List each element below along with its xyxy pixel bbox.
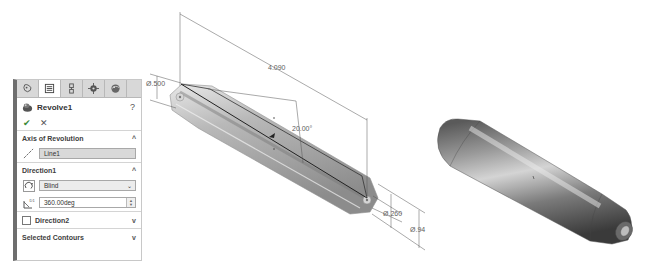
end-condition-value: Blind xyxy=(44,182,58,189)
reverse-direction-icon[interactable] xyxy=(22,179,35,192)
section-label: Axis of Revolution xyxy=(22,135,132,142)
configuration-manager-tab[interactable] xyxy=(61,80,83,97)
angle-value: 360.00deg xyxy=(44,199,75,206)
chevron-down-icon[interactable]: v xyxy=(132,217,136,224)
axis-of-revolution-section: Axis of Revolution ^ Line1 xyxy=(17,130,141,162)
feature-tree-icon xyxy=(22,83,33,94)
dimension-bore-diameter[interactable]: Ø.260 xyxy=(383,210,402,217)
feature-manager-tab[interactable] xyxy=(17,80,39,97)
appearance-sphere-icon xyxy=(110,83,121,94)
angle-spinner[interactable]: ▲▼ xyxy=(126,198,135,207)
end-condition-dropdown[interactable]: Blind⌄ xyxy=(39,180,136,191)
help-icon[interactable]: ? xyxy=(130,102,135,112)
dimension-angle[interactable]: 20.00° xyxy=(292,125,313,132)
axis-value: Line1 xyxy=(44,150,60,157)
direction1-header[interactable]: Direction1 ^ xyxy=(17,163,141,177)
action-buttons: ✔ ✕ xyxy=(17,116,141,130)
section-label: Direction1 xyxy=(22,167,132,174)
revolve-feature-icon xyxy=(22,102,33,113)
property-list-icon xyxy=(44,83,55,94)
feature-header: Revolve1 ? xyxy=(17,98,141,116)
dimension-right-diameter[interactable]: Ø.94 xyxy=(410,226,425,233)
selected-contours-header[interactable]: Selected Contours v xyxy=(17,229,141,245)
axis-line-icon xyxy=(22,147,35,160)
direction1-section: Direction1 ^ Blind⌄ D1 360.00deg▲▼ xyxy=(17,162,141,211)
direction2-checkbox[interactable] xyxy=(22,216,31,225)
ok-button[interactable]: ✔ xyxy=(23,118,31,128)
property-manager-panel: Revolve1 ? ✔ ✕ Axis of Revolution ^ Line… xyxy=(13,79,142,261)
chevron-up-icon[interactable]: ^ xyxy=(132,135,136,142)
revolve-preview xyxy=(170,84,378,214)
dimension-left-diameter[interactable]: Ø.500 xyxy=(146,80,165,87)
chevron-down-icon[interactable]: v xyxy=(132,234,136,241)
display-manager-tab[interactable] xyxy=(105,80,127,97)
axis-selection-box[interactable]: Line1 xyxy=(39,148,136,159)
direction2-header[interactable]: Direction2 v xyxy=(17,212,141,228)
crosshair-icon xyxy=(88,83,99,94)
section-label: Direction2 xyxy=(35,217,132,224)
dimension-overall-length[interactable]: 4.090 xyxy=(268,64,286,71)
dimxpert-manager-tab[interactable] xyxy=(83,80,105,97)
configuration-icon xyxy=(66,83,77,94)
cancel-button[interactable]: ✕ xyxy=(40,118,48,128)
property-manager-tab[interactable] xyxy=(39,80,61,97)
revolved-solid xyxy=(438,119,636,244)
manager-tab-bar xyxy=(17,80,141,98)
section-label: Selected Contours xyxy=(22,234,132,241)
direction2-section: Direction2 v xyxy=(17,211,141,228)
angle-input[interactable]: 360.00deg▲▼ xyxy=(39,197,136,208)
angle-icon: D1 xyxy=(22,196,35,209)
selected-contours-section: Selected Contours v xyxy=(17,228,141,245)
feature-title: Revolve1 xyxy=(37,103,130,112)
svg-text:D1: D1 xyxy=(29,198,35,203)
chevron-down-icon: ⌄ xyxy=(127,182,132,189)
chevron-up-icon[interactable]: ^ xyxy=(132,167,136,174)
axis-of-revolution-header[interactable]: Axis of Revolution ^ xyxy=(17,131,141,145)
